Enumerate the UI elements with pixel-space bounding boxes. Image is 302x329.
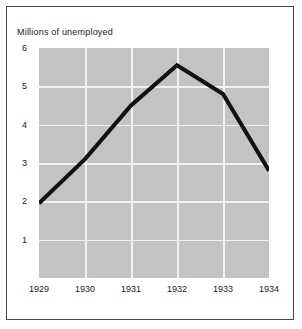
y-axis-tick-label: 4 (7, 120, 27, 130)
x-axis-tick-label: 1930 (65, 284, 105, 294)
x-axis-tick-label: 1929 (19, 284, 59, 294)
x-axis-tick-label: 1931 (111, 284, 151, 294)
x-axis-tick-label: 1933 (203, 284, 243, 294)
chart-title: Millions of unemployed (17, 27, 113, 37)
plot-area (39, 48, 269, 278)
y-axis-tick-label: 3 (7, 158, 27, 168)
y-axis-tick-label: 6 (7, 43, 27, 53)
data-series-line (39, 48, 269, 278)
y-axis-tick-label: 1 (7, 235, 27, 245)
figure-frame: Millions of unemployed 6 5 4 3 2 1 1929 … (6, 6, 294, 320)
y-axis-tick-label: 2 (7, 196, 27, 206)
x-axis-tick-label: 1934 (249, 284, 289, 294)
x-axis-tick-label: 1932 (157, 284, 197, 294)
y-axis-tick-label: 5 (7, 81, 27, 91)
